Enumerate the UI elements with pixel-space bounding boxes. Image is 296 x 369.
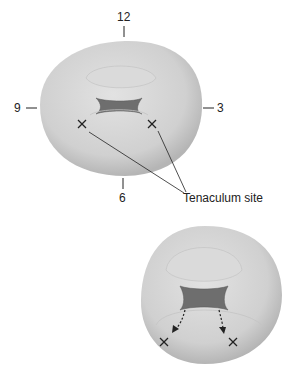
clock-label-3: 3 <box>217 102 224 114</box>
cervix-diagram <box>0 0 296 369</box>
clock-label-9: 9 <box>14 102 21 114</box>
cervix-bottom <box>141 226 282 364</box>
clock-label-12: 12 <box>117 11 130 23</box>
cervix-top <box>26 26 214 193</box>
clock-label-6: 6 <box>119 192 126 204</box>
tenaculum-site-label: Tenaculum site <box>183 192 263 204</box>
